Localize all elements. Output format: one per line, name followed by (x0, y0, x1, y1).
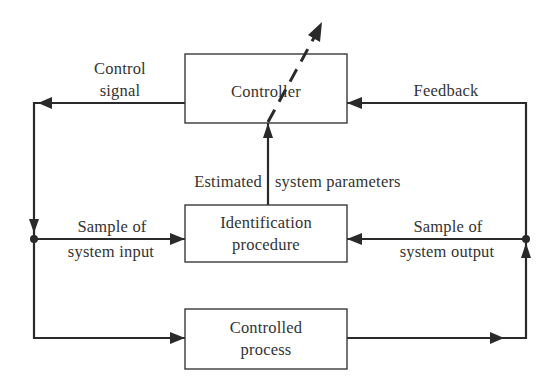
estimated-label-right: system parameters (275, 172, 401, 191)
output-junction-dot (522, 235, 530, 243)
identification-block: Identification procedure (185, 205, 347, 262)
feedback-label: Feedback (414, 81, 479, 100)
process-label-line2: process (241, 340, 292, 359)
sample-output-arrowhead-icon (347, 233, 362, 245)
process-input-arrowhead-icon (170, 332, 185, 344)
controller-label: Controller (231, 82, 301, 101)
process-label-line1: Controlled (230, 318, 303, 337)
estimated-label-left: Estimated (194, 172, 262, 191)
control-signal-label-line1: Control (94, 59, 146, 78)
identification-label-line1: Identification (220, 213, 312, 232)
control-signal-label-line2: signal (100, 81, 141, 100)
sample-output-label-line2: system output (400, 242, 495, 261)
sample-input-label-line1: Sample of (77, 217, 146, 236)
control-signal-arrowhead-icon (38, 97, 52, 109)
estimated-parameters-arrowhead-icon (263, 123, 273, 138)
controlled-process-block: Controlled process (185, 309, 347, 369)
up-arrowhead-icon (521, 243, 531, 258)
sample-input-arrowhead-icon (170, 233, 185, 245)
down-arrowhead-icon (29, 219, 39, 233)
sample-output-label-line1: Sample of (413, 217, 482, 236)
sample-input-label-line2: system input (68, 242, 154, 261)
input-junction-dot (30, 235, 38, 243)
controller-block: Controller (185, 54, 347, 123)
feedback-arrowhead-icon (347, 97, 362, 109)
process-output-arrowhead-icon (490, 332, 504, 344)
block-diagram: Controller Identification procedure Cont… (0, 0, 553, 388)
identification-label-line2: procedure (232, 235, 300, 254)
adaptation-arrowhead-icon (308, 22, 322, 42)
